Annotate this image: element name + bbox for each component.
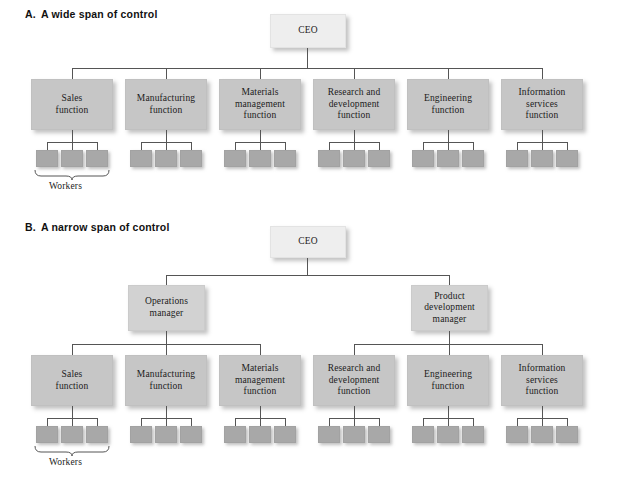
connector-bworker-drop-1c <box>97 418 98 426</box>
connector-worker-stem-5 <box>448 130 449 142</box>
node-worker[interactable] <box>86 150 108 167</box>
node-ceo-narrow[interactable]: CEO <box>270 226 346 258</box>
workers-label-narrow: Workers <box>49 457 82 467</box>
connector-bworker-drop-5b <box>448 418 449 426</box>
node-worker[interactable] <box>412 426 434 443</box>
node-worker[interactable] <box>224 426 246 443</box>
connector-worker-drop-1c <box>97 142 98 150</box>
node-function-materials-narrow[interactable]: Materialsmanagementfunction <box>219 355 301 406</box>
node-function-rnd-narrow-label: Research anddevelopmentfunction <box>325 363 384 398</box>
node-worker[interactable] <box>531 426 553 443</box>
node-worker[interactable] <box>249 426 271 443</box>
node-worker[interactable] <box>155 426 177 443</box>
node-function-engineering-narrow-label: Engineeringfunction <box>421 369 475 392</box>
connector-narrow-bus <box>166 275 449 276</box>
node-function-engineering-wide[interactable]: Engineeringfunction <box>407 79 489 130</box>
node-worker[interactable] <box>368 150 390 167</box>
node-function-sales-narrow-label: Salesfunction <box>53 369 92 392</box>
node-worker[interactable] <box>412 150 434 167</box>
node-worker[interactable] <box>130 150 152 167</box>
node-worker[interactable] <box>274 426 296 443</box>
node-worker[interactable] <box>224 150 246 167</box>
node-worker[interactable] <box>437 426 459 443</box>
connector-worker-drop-4c <box>379 142 380 150</box>
node-worker[interactable] <box>462 150 484 167</box>
node-worker[interactable] <box>274 150 296 167</box>
node-function-materials-narrow-label: Materialsmanagementfunction <box>232 363 288 398</box>
node-worker[interactable] <box>531 150 553 167</box>
workers-label-wide: Workers <box>49 181 82 191</box>
connector-drop-mgr-1 <box>166 275 167 285</box>
node-product-development-manager[interactable]: Productdevelopmentmanager <box>411 285 488 331</box>
workers-brace-narrow <box>34 445 110 457</box>
node-worker[interactable] <box>36 426 58 443</box>
connector-bworker-drop-4c <box>379 418 380 426</box>
node-worker[interactable] <box>61 426 83 443</box>
node-ceo-wide-label: CEO <box>295 25 320 37</box>
connector-worker-stem-3 <box>260 130 261 142</box>
node-product-development-manager-label: Productdevelopmentmanager <box>421 291 478 326</box>
node-worker[interactable] <box>61 150 83 167</box>
section-a-title: A.A wide span of control <box>25 8 158 20</box>
node-function-materials-wide[interactable]: Materialsmanagementfunction <box>219 79 301 130</box>
node-function-information-wide[interactable]: Informationservicesfunction <box>501 79 583 130</box>
connector-bworker-drop-3a <box>235 418 236 426</box>
section-b-title: B.A narrow span of control <box>25 221 170 233</box>
node-function-rnd-wide-label: Research anddevelopmentfunction <box>325 87 384 122</box>
connector-bworker-drop-2a <box>141 418 142 426</box>
node-worker[interactable] <box>249 150 271 167</box>
connector-worker-drop-2b <box>166 142 167 150</box>
node-worker[interactable] <box>343 150 365 167</box>
connector-worker-drop-3a <box>235 142 236 150</box>
node-worker[interactable] <box>86 426 108 443</box>
node-worker[interactable] <box>462 426 484 443</box>
connector-bworker-stem-2 <box>166 406 167 418</box>
node-worker[interactable] <box>506 426 528 443</box>
node-operations-manager[interactable]: Operationsmanager <box>128 285 205 331</box>
connector-drop-fn-5 <box>448 68 449 79</box>
node-function-manufacturing-wide[interactable]: Manufacturingfunction <box>125 79 207 130</box>
connector-worker-drop-4a <box>329 142 330 150</box>
connector-bworker-drop-4b <box>354 418 355 426</box>
node-function-information-narrow-label: Informationservicesfunction <box>515 363 568 398</box>
node-worker[interactable] <box>368 426 390 443</box>
connector-bworker-stem-4 <box>354 406 355 418</box>
node-function-information-narrow[interactable]: Informationservicesfunction <box>501 355 583 406</box>
node-worker[interactable] <box>180 150 202 167</box>
node-worker[interactable] <box>437 150 459 167</box>
section-a-title-text: A wide span of control <box>41 8 158 20</box>
connector-worker-drop-2a <box>141 142 142 150</box>
node-ceo-wide[interactable]: CEO <box>270 14 346 48</box>
node-worker[interactable] <box>318 426 340 443</box>
connector-drop-bfn-6 <box>542 344 543 355</box>
node-function-engineering-narrow[interactable]: Engineeringfunction <box>407 355 489 406</box>
connector-drop-fn-3 <box>260 68 261 79</box>
connector-drop-fn-2 <box>166 68 167 79</box>
node-function-rnd-narrow[interactable]: Research anddevelopmentfunction <box>313 355 395 406</box>
node-operations-manager-label: Operationsmanager <box>142 296 191 319</box>
node-function-manufacturing-narrow[interactable]: Manufacturingfunction <box>125 355 207 406</box>
connector-bworker-stem-3 <box>260 406 261 418</box>
connector-worker-drop-2c <box>191 142 192 150</box>
node-function-sales-narrow[interactable]: Salesfunction <box>31 355 113 406</box>
connector-drop-bfn-3 <box>260 344 261 355</box>
connector-worker-stem-2 <box>166 130 167 142</box>
connector-worker-drop-1b <box>72 142 73 150</box>
node-worker[interactable] <box>556 426 578 443</box>
connector-wide-bus <box>72 68 542 69</box>
connector-bworker-drop-6b <box>542 418 543 426</box>
node-function-rnd-wide[interactable]: Research anddevelopmentfunction <box>313 79 395 130</box>
node-worker[interactable] <box>318 150 340 167</box>
node-worker[interactable] <box>343 426 365 443</box>
connector-worker-drop-6a <box>517 142 518 150</box>
node-worker[interactable] <box>506 150 528 167</box>
node-worker[interactable] <box>556 150 578 167</box>
node-worker[interactable] <box>36 150 58 167</box>
connector-bworker-drop-5a <box>423 418 424 426</box>
connector-worker-drop-5b <box>448 142 449 150</box>
node-worker[interactable] <box>130 426 152 443</box>
node-function-sales-wide[interactable]: Salesfunction <box>31 79 113 130</box>
node-worker[interactable] <box>180 426 202 443</box>
node-worker[interactable] <box>155 150 177 167</box>
node-function-sales-wide-label: Salesfunction <box>53 93 92 116</box>
